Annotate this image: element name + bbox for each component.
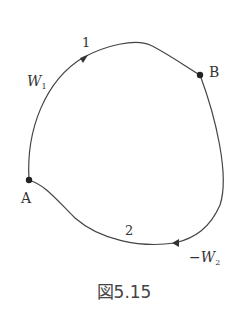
path-2-curve <box>29 75 223 244</box>
path-1-curve <box>29 42 200 180</box>
path-1-label: 1 <box>82 35 90 50</box>
work-2-label: −W2 <box>189 249 220 267</box>
path-diagram: A B 1 2 W1 −W2 図5.15 <box>0 0 247 315</box>
point-a-dot <box>26 177 32 183</box>
point-a-label: A <box>20 190 32 206</box>
figure-caption: 図5.15 <box>97 282 152 302</box>
path-1-arrow-icon <box>80 55 88 63</box>
work-1-label: W1 <box>27 73 46 91</box>
point-b-dot <box>197 72 203 78</box>
path-2-arrow-icon <box>172 239 179 247</box>
path-2-label: 2 <box>125 223 133 238</box>
point-b-label: B <box>209 64 219 80</box>
